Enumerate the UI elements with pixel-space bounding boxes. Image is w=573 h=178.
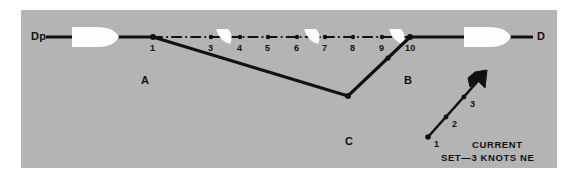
label-track-point-4: 4 [237, 44, 242, 53]
label-track-point-3: 3 [208, 44, 213, 53]
track-dot-1 [150, 34, 156, 40]
track-dot-6 [295, 35, 299, 39]
label-track-point-10: 10 [405, 44, 415, 53]
label-track-point-5: 5 [265, 44, 270, 53]
current-vector-arrowhead [468, 70, 487, 88]
track-dot-9 [380, 35, 384, 39]
current-vector-arrow [425, 70, 487, 140]
track-dot-b [385, 55, 390, 60]
current-vector-dot-3 [462, 95, 467, 100]
label-node-a: A [141, 75, 149, 86]
vessel-symbol-start [72, 27, 119, 47]
track-dot-4 [238, 35, 242, 39]
label-track-point-8: 8 [350, 44, 355, 53]
track-dot-5 [266, 35, 270, 39]
actual-track-polyline [153, 37, 410, 96]
label-node-c: C [345, 136, 353, 147]
label-current-caption-title: CURRENT [472, 140, 523, 150]
track-dot-c [345, 93, 351, 99]
label-destination-point: D [537, 31, 545, 42]
current-vector-dot-1 [425, 134, 431, 140]
label-current-caption-detail: SET—3 KNOTS NE [441, 153, 534, 163]
label-track-point-7: 7 [322, 44, 327, 53]
label-node-b: B [404, 75, 412, 86]
label-track-point-9: 9 [379, 44, 384, 53]
label-track-point-6: 6 [294, 44, 299, 53]
track-dot-7 [323, 35, 327, 39]
current-vector-dot-2 [444, 115, 449, 120]
track-dot-8 [351, 35, 355, 39]
label-track-point-1: 1 [150, 44, 155, 53]
label-current-tick-1: 1 [434, 140, 439, 149]
track-dot-10 [407, 34, 413, 40]
label-current-tick-3: 3 [470, 100, 475, 109]
track-point-dots [150, 34, 413, 99]
actual-track-line [153, 37, 410, 96]
track-dot-3 [209, 35, 213, 39]
label-departure-point: Dp [31, 31, 46, 42]
label-current-tick-2: 2 [452, 120, 457, 129]
vessel-symbol-end [464, 27, 511, 47]
figure-root: Dp D 1 3 4 5 6 7 8 9 10 A B C 1 2 3 CURR… [0, 0, 573, 178]
